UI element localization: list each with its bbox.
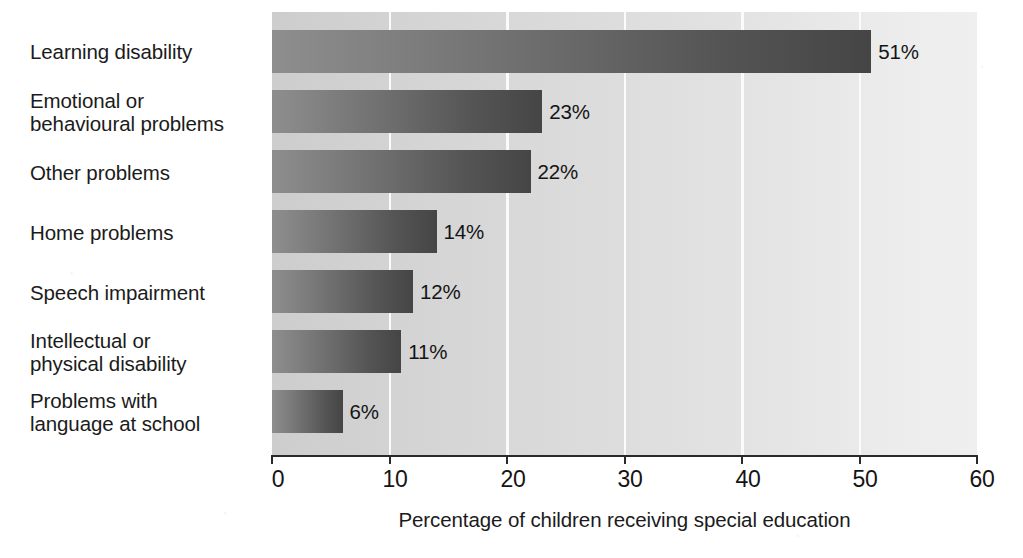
bar-value-speech-impairment: 12% (413, 270, 460, 313)
bar-other-problems (272, 150, 531, 193)
category-label-home-problems: Home problems (30, 221, 268, 244)
category-label-emotional-behavioural-problems: Emotional or behavioural problems (30, 89, 268, 135)
x-tick-20 (506, 455, 508, 464)
bar-emotional-behavioural-problems (272, 90, 542, 133)
bar-value-emotional-behavioural-problems: 23% (542, 90, 589, 133)
gridline-40 (741, 12, 744, 455)
category-label-speech-impairment: Speech impairment (30, 281, 268, 304)
bar-value-home-problems: 14% (437, 210, 484, 253)
bar-value-learning-disability: 51% (871, 30, 918, 73)
category-label-intellectual-physical-disability: Intellectual or physical disability (30, 329, 268, 375)
bar-chart-figure: Learning disability Emotional or behavio… (0, 0, 1023, 558)
x-tick-0 (271, 455, 273, 464)
x-tick-50 (859, 455, 861, 464)
category-label-learning-disability: Learning disability (30, 40, 268, 63)
x-tick-10 (389, 455, 391, 464)
x-tick-label-30: 30 (618, 466, 643, 493)
bar-learning-disability (272, 30, 871, 73)
x-axis-title: Percentage of children receiving special… (272, 508, 977, 532)
x-tick-label-10: 10 (383, 466, 408, 493)
category-label-other-problems: Other problems (30, 161, 268, 184)
x-tick-60 (976, 455, 978, 464)
category-axis-labels: Learning disability Emotional or behavio… (0, 0, 268, 558)
bar-value-problems-with-language-at-school: 6% (343, 390, 379, 433)
x-tick-40 (741, 455, 743, 464)
gridline-20 (506, 12, 509, 455)
x-tick-label-0: 0 (272, 466, 285, 493)
gridline-50 (859, 12, 862, 455)
bar-value-other-problems: 22% (531, 150, 578, 193)
bar-value-intellectual-physical-disability: 11% (401, 330, 447, 373)
x-tick-label-60: 60 (970, 466, 995, 493)
x-tick-30 (624, 455, 626, 464)
bar-problems-with-language-at-school (272, 390, 343, 433)
x-tick-label-20: 20 (501, 466, 526, 493)
bar-intellectual-physical-disability (272, 330, 401, 373)
plot-area: 51% 23% 22% 14% 12% 11% 6% (272, 12, 977, 455)
gridline-30 (624, 12, 627, 455)
x-tick-label-40: 40 (736, 466, 761, 493)
x-tick-label-50: 50 (853, 466, 878, 493)
bar-home-problems (272, 210, 437, 253)
bar-speech-impairment (272, 270, 413, 313)
category-label-problems-with-language-at-school: Problems with language at school (30, 389, 268, 435)
